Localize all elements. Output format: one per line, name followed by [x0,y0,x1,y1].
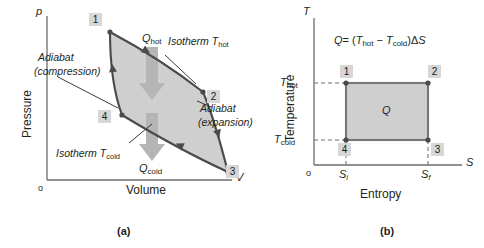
panel-b-point-1: 1 [340,65,353,78]
panel-a-point-4: 4 [98,110,111,123]
panel-a-origin: o [38,184,43,193]
panel-b-point-3: 3 [431,143,444,156]
q-hot-label-text: Q [142,32,151,44]
panel-b-y-axis-symbol: T [303,6,310,17]
tick-s-i-sub: i [346,173,348,182]
adiabat-compression-label-line2: (compression) [34,66,101,77]
equation-minus: − [373,34,386,46]
adiabat-expansion-label-line1: Adiabat [200,103,236,114]
tick-s-i: Si [339,169,348,182]
tick-t-cold-symbol: T [274,133,281,145]
tick-s-f: Sf [421,169,431,182]
panel-b-x-axis-symbol: S [466,157,473,168]
panel-a-point-1: 1 [89,13,102,26]
heat-equation: Q= (Thot − Tcold)ΔS [334,35,426,48]
panel-b-caption: (b) [380,226,394,237]
tick-t-hot-sub: hot [287,81,298,90]
panel-a-point-3: 3 [226,165,239,178]
q-cold-label-text: Q [139,162,148,174]
panel-b-ts-diagram: T S Temperature Entropy o Q= (Thot − Tco… [250,0,484,248]
equation-q: Q [334,34,343,46]
panel-b-origin: o [306,169,311,178]
equation-t-hot-sub: hot [362,39,373,48]
adiabat-compression-label-line1: Adiabat [38,52,74,63]
equation-close: )Δ [407,34,418,46]
isotherm-hot-label-sub: hot [218,40,229,49]
panel-a-y-axis-symbol: p [36,6,42,17]
tick-t-hot: Thot [280,77,298,90]
q-area-label: Q [382,105,391,116]
q-hot-label-sub: hot [151,37,162,46]
isotherm-hot-label: Isotherm Thot [168,36,229,48]
q-hot-label: Qhot [142,33,162,46]
q-cold-label-sub: cold [148,167,163,176]
equation-equals: = ( [343,34,356,46]
panel-a-pv-diagram: p V Pressure Volume o 1 2 3 4 Adiabat (c… [0,0,250,248]
equation-t-cold-sub: cold [393,39,408,48]
panel-b-x-axis-label: Entropy [360,188,401,200]
panel-b-point-2: 2 [428,65,441,78]
tick-t-hot-symbol: T [280,76,287,88]
isotherm-cold-label: Isotherm Tcold [56,148,120,160]
isotherm-cold-label-sub: cold [106,152,120,161]
panel-a-y-axis-label: Pressure [20,90,34,138]
tick-s-f-sub: f [428,173,430,182]
panel-a-caption: (a) [117,226,130,237]
equation-s: S [418,34,425,46]
panel-b-point-4: 4 [338,143,351,156]
isotherm-hot-label-text: Isotherm T [168,35,218,47]
adiabat-expansion-label-line2: (expansion) [198,117,253,128]
figure-root: p V Pressure Volume o 1 2 3 4 Adiabat (c… [0,0,484,248]
panel-a-x-axis-label: Volume [126,184,166,196]
isotherm-cold-label-text: Isotherm T [56,147,106,159]
tick-t-cold: Tcold [274,134,295,147]
tick-t-cold-sub: cold [281,138,296,147]
equation-t-cold: T [386,34,393,46]
q-cold-label: Qcold [139,163,162,176]
